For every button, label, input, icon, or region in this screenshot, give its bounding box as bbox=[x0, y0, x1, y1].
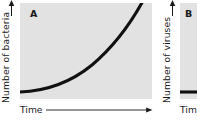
panel-b-x-axis-label: Tim bbox=[180, 105, 197, 114]
panel-a-x-axis-label: Time bbox=[20, 105, 42, 114]
y-axis-up-arrow-icon bbox=[168, 0, 177, 16]
panel-b-plot-area: B bbox=[180, 3, 197, 99]
panel-a-exponential-curve bbox=[20, 3, 152, 99]
panel-b-x-axis: Tim bbox=[180, 101, 197, 119]
panel-b-flat-line bbox=[180, 3, 197, 99]
panel-a-y-axis-label: Number of bacteria bbox=[1, 17, 10, 103]
panel-a-plot-area: A bbox=[20, 3, 152, 99]
panel-b-y-axis-label: Number of viruses bbox=[162, 13, 171, 103]
x-axis-right-arrow-icon bbox=[46, 105, 153, 115]
two-panel-growth-figure: Number of bacteria A Time Number of viru… bbox=[0, 0, 197, 123]
panel-a: Number of bacteria A Time bbox=[0, 0, 153, 123]
panel-b: Number of viruses B Tim bbox=[153, 0, 197, 123]
y-axis-up-arrow-icon bbox=[7, 0, 16, 16]
panel-a-x-axis: Time bbox=[20, 101, 153, 119]
